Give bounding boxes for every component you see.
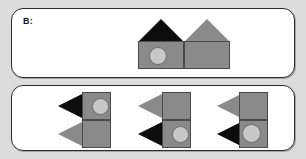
- option-3-bottom-unit: [213, 120, 289, 148]
- triangle-left-black-icon: [217, 123, 239, 145]
- triangle-left-gray-icon: [217, 95, 239, 117]
- triangle-left-black-icon: [138, 122, 162, 146]
- square-gray: [239, 92, 268, 120]
- option-2-bottom-unit: [134, 120, 210, 148]
- option-2-top-unit: [134, 92, 210, 120]
- triangle-left-gray-icon: [58, 122, 82, 146]
- roof-triangle-black-icon: [138, 19, 184, 42]
- roof-triangle-gray-icon: [184, 19, 230, 42]
- option-3[interactable]: [213, 92, 289, 148]
- panel-label-b: B:: [23, 17, 33, 26]
- option-1[interactable]: [54, 92, 130, 148]
- prompt-figure-group: [138, 19, 230, 69]
- option-1-top-unit: [54, 92, 130, 120]
- triangle-left-gray-icon: [138, 94, 162, 118]
- prompt-panel: B:: [11, 8, 295, 78]
- house-left: [138, 19, 184, 69]
- marker-circle-icon: [242, 124, 261, 143]
- puzzle-stage: B:: [0, 0, 306, 159]
- marker-circle-icon: [172, 126, 189, 143]
- square-gray: [82, 120, 111, 148]
- options-panel: [11, 85, 295, 151]
- option-2[interactable]: [134, 92, 210, 148]
- marker-circle-icon: [92, 98, 109, 115]
- option-1-bottom-unit: [54, 120, 130, 148]
- triangle-left-black-icon: [58, 94, 82, 118]
- house-body-square: [184, 41, 230, 69]
- marker-circle-icon: [149, 47, 167, 65]
- option-3-top-unit: [213, 92, 289, 120]
- house-right: [184, 19, 230, 69]
- square-gray: [162, 92, 191, 120]
